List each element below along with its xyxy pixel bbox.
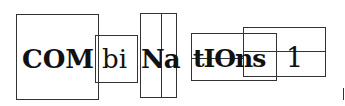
edge-tick (343, 88, 344, 100)
text-com: COM (22, 46, 94, 72)
text-bi: bi (102, 46, 127, 72)
text-one: 1 (286, 44, 303, 71)
text-na: Na (141, 46, 180, 72)
text-tions: tIOns (193, 46, 265, 71)
